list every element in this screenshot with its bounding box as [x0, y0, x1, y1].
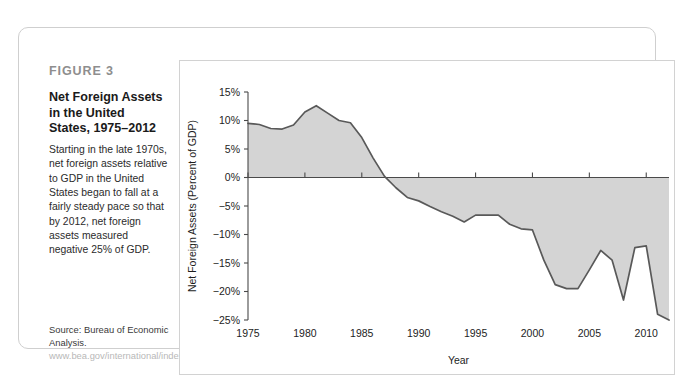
figure-description: Starting in the late 1970s, net foreign … — [49, 143, 169, 258]
x-tick-label: 1980 — [293, 327, 317, 339]
y-axis-ticks: 15%10%5%0%−5%−10%−15%−20%−25% — [213, 86, 248, 326]
chart-panel: 15%10%5%0%−5%−10%−15%−20%−25% 1975198019… — [179, 60, 675, 375]
y-tick-label: −10% — [213, 228, 240, 240]
x-tick-label: 1975 — [236, 327, 260, 339]
y-tick-label: −5% — [219, 200, 240, 212]
y-tick-label: 10% — [219, 114, 240, 126]
y-tick-label: −25% — [213, 314, 240, 326]
y-tick-label: 5% — [225, 143, 240, 155]
y-tick-label: 0% — [225, 171, 240, 183]
x-tick-label: 2005 — [578, 327, 602, 339]
y-axis-title: Net Foreign Assets (Percent of GDP) — [186, 120, 198, 292]
y-tick-label: −20% — [213, 285, 240, 297]
x-tick-label: 1990 — [407, 327, 431, 339]
figure-card: FIGURE 3 Net Foreign Assets in the Unite… — [18, 27, 656, 349]
figure-title: Net Foreign Assets in the United States,… — [49, 90, 169, 137]
y-tick-label: −15% — [213, 257, 240, 269]
figure-source-prefix: Source: Bureau of Economic Analysis. — [49, 324, 168, 348]
x-tick-label: 1985 — [350, 327, 374, 339]
x-tick-label: 2000 — [521, 327, 545, 339]
x-tick-label: 2010 — [635, 327, 659, 339]
x-tick-label: 1995 — [464, 327, 488, 339]
figure-caption-column: FIGURE 3 Net Foreign Assets in the Unite… — [49, 64, 169, 369]
figure-source: Source: Bureau of Economic Analysis. www… — [49, 324, 171, 363]
x-axis-title: Year — [448, 354, 470, 366]
figure-number-label: FIGURE 3 — [49, 64, 169, 78]
area-series-fill — [248, 106, 669, 320]
net-foreign-assets-area-chart: 15%10%5%0%−5%−10%−15%−20%−25% 1975198019… — [180, 61, 676, 376]
y-tick-label: 15% — [219, 86, 240, 98]
